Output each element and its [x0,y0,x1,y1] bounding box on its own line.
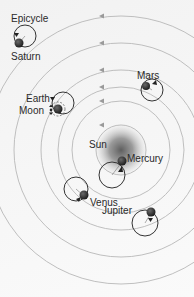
earth-planet [54,105,63,114]
epicycle-arrow-icon [14,33,19,37]
mercury-planet [118,157,127,166]
label-earth: Earth [26,94,50,104]
label-mars: Mars [137,71,159,81]
orbit-direction-arrows [99,14,104,128]
label-epicycle: Epicycle [11,14,48,24]
jupiter-group [132,208,158,237]
mars-planet [142,82,150,90]
saturn-planet [15,39,24,48]
epicycle-arrow-icon [50,97,55,101]
arrow-left-icon [99,68,104,73]
arrow-left-icon [99,123,104,128]
label-moon: Moon [19,106,44,116]
epicycle-diagram: Epicycle Saturn Mars Earth Moon Sun Merc… [0,0,194,297]
saturn-group [14,25,36,48]
arrow-left-icon [99,99,104,104]
epicycle-arrow-icon [148,218,153,222]
label-jupiter: Jupiter [102,206,132,216]
label-saturn: Saturn [11,52,40,62]
jupiter-planet [147,208,156,217]
mars-group [141,79,163,101]
label-sun: Sun [89,140,107,150]
venus-planet [80,191,89,200]
venus-group [64,177,89,202]
moon-body [50,109,53,112]
label-mercury: Mercury [127,154,163,164]
arrow-left-icon [99,85,104,90]
